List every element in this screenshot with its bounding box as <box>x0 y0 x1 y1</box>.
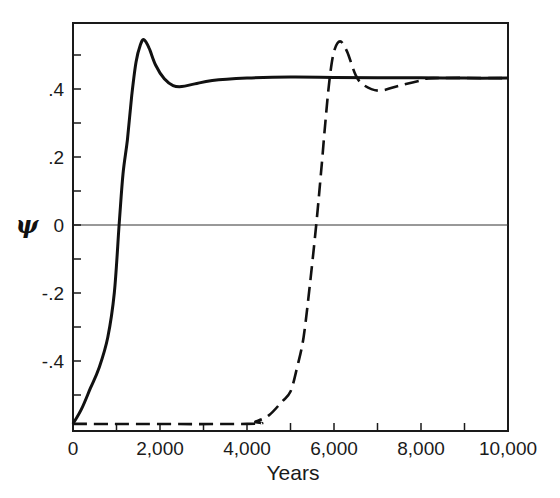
x-tick-label: 4,000 <box>223 438 271 459</box>
x-tick-label: 0 <box>68 438 79 459</box>
y-tick-label: -.4 <box>42 351 65 372</box>
x-axis-tick-labels: 02,0004,0006,0008,00010,000 <box>68 438 537 459</box>
x-tick-label: 10,000 <box>479 438 537 459</box>
line-chart: 02,0004,0006,0008,00010,000 .4.20-.2-.4 … <box>0 0 560 498</box>
y-tick-label: -.2 <box>42 283 64 304</box>
series-dashed-line <box>73 41 508 424</box>
x-tick-label: 6,000 <box>310 438 358 459</box>
y-tick-label: .4 <box>48 79 64 100</box>
y-axis-tick-labels: .4.20-.2-.4 <box>42 79 65 372</box>
x-tick-label: 2,000 <box>136 438 184 459</box>
x-tick-label: 8,000 <box>397 438 445 459</box>
y-axis-ticks <box>73 55 81 395</box>
data-series <box>73 40 508 424</box>
series-solid-line <box>73 40 508 424</box>
x-axis-title: Years <box>267 461 320 484</box>
plot-frame <box>73 23 508 431</box>
y-axis-title: ψ <box>16 210 40 239</box>
y-tick-label: .2 <box>48 147 64 168</box>
y-tick-label: 0 <box>53 215 64 236</box>
